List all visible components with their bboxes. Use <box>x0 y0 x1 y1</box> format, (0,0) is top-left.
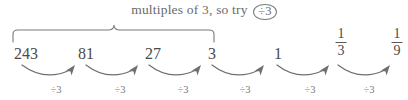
fraction-numerator: 1 <box>392 27 403 41</box>
operation-label: ÷3 <box>50 84 61 95</box>
sequence-term: 3 <box>208 45 216 63</box>
term-value: 27 <box>145 45 161 62</box>
term-value: 3 <box>208 45 216 62</box>
fraction-denominator: 3 <box>336 44 347 58</box>
term-value: 243 <box>14 45 38 62</box>
arrowhead-1 <box>66 65 75 76</box>
arrowhead-5 <box>320 65 329 76</box>
term-value: 81 <box>78 45 94 62</box>
fraction: 1 9 <box>392 27 403 59</box>
operation-label: ÷3 <box>363 84 374 95</box>
divide-arrow-5 <box>277 65 324 75</box>
operation-label: ÷3 <box>114 84 125 95</box>
sequence-term: 81 <box>78 45 94 63</box>
math-diagram: multiples of 3, so try ÷3 243 81 <box>0 0 408 100</box>
sequence-term: 1 9 <box>392 27 403 59</box>
sequence-term: 243 <box>14 45 38 63</box>
operation-label: ÷3 <box>304 84 315 95</box>
divide-arrow-6 <box>338 65 385 75</box>
sequence-term: 1 3 <box>336 27 347 59</box>
divide-arrow-2 <box>86 65 133 75</box>
operation-label: ÷3 <box>239 84 250 95</box>
fraction: 1 3 <box>336 27 347 59</box>
sequence-term: 1 <box>274 45 282 63</box>
fraction-numerator: 1 <box>336 27 347 41</box>
arrowhead-4 <box>255 65 264 76</box>
divide-arrow-1 <box>22 65 70 75</box>
operation-label: ÷3 <box>177 84 188 95</box>
term-value: 1 <box>274 45 282 62</box>
divide-arrow-3 <box>149 65 196 75</box>
arrowhead-2 <box>129 65 138 76</box>
sequence-term: 27 <box>145 45 161 63</box>
arrowhead-6 <box>381 65 390 76</box>
top-brace <box>13 25 214 42</box>
divide-arrow-4 <box>212 65 259 75</box>
fraction-denominator: 9 <box>392 44 403 58</box>
arrowhead-3 <box>192 65 201 76</box>
